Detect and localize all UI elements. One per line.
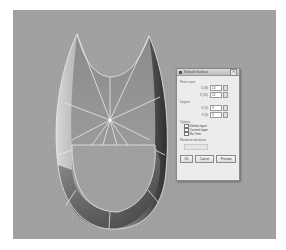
degree-v-label: V (3) [201, 113, 208, 117]
dialog-body: Point count U (8) 14 V (10) 12 Degree U … [177, 76, 239, 165]
degree-v-row: V (3) 3 [180, 112, 228, 118]
close-button[interactable]: ✕ [230, 69, 237, 76]
degree-label: Degree [180, 100, 236, 104]
point-count-v-spinner[interactable] [223, 92, 228, 98]
degree-v-spinner[interactable] [223, 112, 228, 118]
degree-u-input[interactable]: 3 [210, 105, 222, 111]
degree-u-label: U (3) [201, 106, 208, 110]
checkbox-box[interactable] [184, 132, 189, 137]
retrim-label: Re-Trim [190, 132, 201, 136]
dialog-buttons: OK Cancel Preview [180, 155, 236, 163]
cancel-button[interactable]: Cancel [195, 155, 215, 163]
3d-viewport[interactable]: Rebuild Surface ✕ Point count U (8) 14 V… [13, 10, 276, 239]
max-deviation-field [184, 144, 208, 150]
rebuild-surface-dialog: Rebuild Surface ✕ Point count U (8) 14 V… [176, 68, 240, 181]
point-count-u-input[interactable]: 14 [210, 85, 222, 91]
ok-button[interactable]: OK [180, 155, 193, 163]
preview-button[interactable]: Preview [216, 155, 236, 163]
point-count-u-label: U (8) [201, 86, 208, 90]
point-count-v-row: V (10) 12 [180, 92, 228, 98]
point-count-label: Point count [180, 80, 236, 84]
point-count-u-spinner[interactable] [223, 85, 228, 91]
degree-v-input[interactable]: 3 [210, 112, 222, 118]
max-deviation-label: Maximum deviation [180, 138, 236, 142]
retrim-checkbox[interactable]: Re-Trim [184, 132, 236, 136]
point-count-u-row: U (8) 14 [180, 85, 228, 91]
app-icon [179, 71, 182, 74]
degree-u-spinner[interactable] [223, 105, 228, 111]
dialog-titlebar[interactable]: Rebuild Surface ✕ [177, 69, 239, 76]
dialog-title: Rebuild Surface [184, 70, 230, 74]
point-count-v-label: V (10) [200, 93, 208, 97]
degree-u-row: U (3) 3 [180, 105, 228, 111]
point-count-v-input[interactable]: 12 [210, 92, 222, 98]
